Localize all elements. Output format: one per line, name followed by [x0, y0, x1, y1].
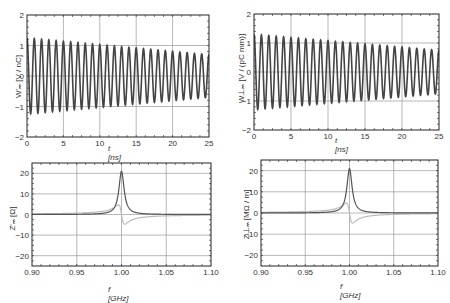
svg-text:0.95: 0.95 [297, 268, 313, 277]
svg-text:1.05: 1.05 [386, 268, 402, 277]
svg-text:10: 10 [249, 188, 258, 197]
svg-text:1.10: 1.10 [430, 268, 446, 277]
svg-text:0.90: 0.90 [253, 268, 269, 277]
svg-text:1.00: 1.00 [342, 268, 358, 277]
br-xlabel: f [GHz] [340, 282, 360, 300]
svg-text:0: 0 [254, 209, 259, 218]
svg-text:20: 20 [249, 167, 258, 176]
svg-text:−20: −20 [244, 251, 258, 260]
br-ylabel: Z⊥ₘ [MΩ / m] [242, 185, 251, 245]
